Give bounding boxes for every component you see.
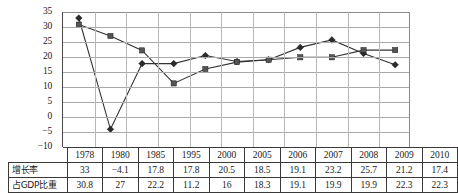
category-separator [221,12,222,147]
table-header-cell: 1995 [174,148,210,163]
table-row: 占GDP比重30.82722.211.21618.319.119.919.922… [9,178,458,193]
table-body: 增长率33−4.117.817.820.518.519.123.225.721.… [9,163,458,193]
table-header-cell: 2007 [316,148,352,163]
gridline [63,117,409,118]
data-point-square [361,48,366,53]
gridline [63,132,409,133]
y-axis-tick-label: 35 [43,7,52,17]
table-row: 增长率33−4.117.817.820.518.519.123.225.721.… [9,163,458,178]
y-axis-tick-label: −5 [42,127,52,137]
y-axis-tick-label: 0 [47,112,52,122]
table-cell: 19.9 [351,178,387,193]
category-separator [158,12,159,147]
table-cell: 25.7 [351,163,387,178]
table-cell: 22.3 [387,178,423,193]
category-separator [348,12,349,147]
series-lines [63,12,411,147]
data-point-square [234,60,239,65]
table-cell: 19.1 [280,163,316,178]
gridline [63,27,409,28]
gridline [63,102,409,103]
category-separator [284,12,285,147]
data-point-square [139,48,144,53]
table-cell: 21.2 [387,163,423,178]
table-header-cell: 2008 [351,148,387,163]
table-cell: 18.3 [245,178,281,193]
y-axis-tick-label: 25 [43,37,52,47]
gridline [63,72,409,73]
table-cell: 22.3 [422,178,458,193]
category-separator [126,12,127,147]
category-separator [379,12,380,147]
category-separator [253,12,254,147]
data-point-diamond [297,44,304,51]
table-header-cell: 2006 [280,148,316,163]
data-point-diamond [170,60,177,67]
table-cell: 22.2 [138,178,174,193]
y-axis: 35302520151050−5−10 [0,0,56,150]
table-cell: 19.1 [280,178,316,193]
y-axis-tick-label: 10 [43,82,52,92]
table-header-cell: 2009 [387,148,423,163]
gridline [63,12,409,13]
table-row-label: 占GDP比重 [9,178,68,193]
table-header-cell: 1985 [138,148,174,163]
category-separator [190,12,191,147]
y-axis-tick-label: 20 [43,52,52,62]
category-separator [95,12,96,147]
table-header-cell: 1978 [67,148,103,163]
table-cell: 18.5 [245,163,281,178]
data-point-square [393,48,398,53]
y-axis-tick-label: 15 [43,67,52,77]
table-cell: 19.9 [316,178,352,193]
data-point-diamond [392,62,399,69]
line-chart: 35302520151050−5−10 [0,0,428,150]
data-point-diamond [76,15,83,22]
table-cell: 17.4 [422,163,458,178]
table-row-label: 增长率 [9,163,68,178]
table-cell: 17.8 [138,163,174,178]
table-cell: 27 [103,178,139,193]
data-point-diamond [139,60,146,67]
table-header-cell: 2005 [245,148,281,163]
table-cell: 33 [67,163,103,178]
table-header-cell: 1980 [103,148,139,163]
plot-area [62,12,410,147]
data-point-square [171,81,176,86]
gridline [63,57,409,58]
gridline [63,42,409,43]
table-cell: 23.2 [316,163,352,178]
table-cell: 30.8 [67,178,103,193]
data-point-square [203,66,208,71]
table-header-row: 1978198019851995200020052006200720082009… [9,148,458,163]
table-cell: 11.2 [174,178,210,193]
table-corner-cell [9,148,68,163]
table-header-cell: 2010 [422,148,458,163]
table-header-cell: 2000 [209,148,245,163]
category-separator [316,12,317,147]
gridline [63,87,409,88]
y-axis-tick-label: 30 [43,22,52,32]
table-cell: 17.8 [174,163,210,178]
table-cell: −4.1 [103,163,139,178]
table-cell: 16 [209,178,245,193]
data-table: 1978198019851995200020052006200720082009… [8,147,458,193]
table-cell: 20.5 [209,163,245,178]
data-point-square [108,33,113,38]
y-axis-tick-label: 5 [47,97,52,107]
